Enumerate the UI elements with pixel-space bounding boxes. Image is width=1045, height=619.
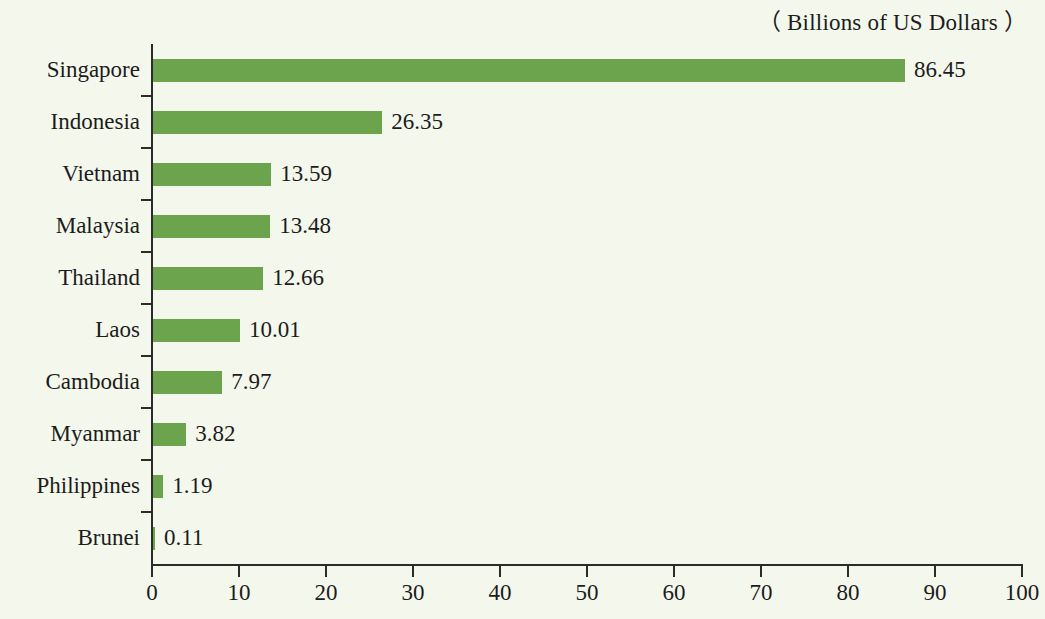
bar-row: Philippines1.19 xyxy=(152,460,1022,512)
x-axis-tick xyxy=(412,566,414,577)
bar xyxy=(153,371,222,394)
x-axis-tick xyxy=(238,566,240,577)
bar-value-label: 13.48 xyxy=(279,200,331,252)
bar xyxy=(153,267,263,290)
bar-value-label: 7.97 xyxy=(231,356,271,408)
x-axis-tick-label: 60 xyxy=(663,580,686,606)
bar-value-label: 1.19 xyxy=(172,460,212,512)
x-axis-tick xyxy=(325,566,327,577)
y-axis-tick xyxy=(141,251,151,253)
chart-unit-note: （ Billions of US Dollars ） xyxy=(758,3,1027,37)
category-label: Laos xyxy=(95,304,140,356)
bar xyxy=(153,319,240,342)
x-axis-tick-label: 0 xyxy=(146,580,158,606)
x-axis-tick xyxy=(673,566,675,577)
y-axis-tick xyxy=(141,199,151,201)
y-axis-tick xyxy=(141,303,151,305)
x-axis-tick-label: 100 xyxy=(1005,580,1040,606)
bar-value-label: 10.01 xyxy=(249,304,301,356)
bar xyxy=(153,527,155,550)
x-axis-tick-label: 10 xyxy=(228,580,251,606)
x-axis-tick xyxy=(586,566,588,577)
x-axis-tick xyxy=(760,566,762,577)
y-axis-tick xyxy=(141,147,151,149)
category-label: Singapore xyxy=(47,44,140,96)
bar-value-label: 12.66 xyxy=(272,252,324,304)
bar xyxy=(153,423,186,446)
x-axis-tick xyxy=(151,566,153,577)
bar-row: Thailand12.66 xyxy=(152,252,1022,304)
bar-row: Myanmar3.82 xyxy=(152,408,1022,460)
x-axis-tick-label: 90 xyxy=(924,580,947,606)
bar-chart: （ Billions of US Dollars ） Singapore86.4… xyxy=(0,0,1045,619)
category-label: Brunei xyxy=(77,512,140,564)
x-axis-tick-label: 20 xyxy=(315,580,338,606)
bar-row: Indonesia26.35 xyxy=(152,96,1022,148)
x-axis-tick xyxy=(934,566,936,577)
x-axis-tick-label: 80 xyxy=(837,580,860,606)
category-label: Thailand xyxy=(58,252,140,304)
category-label: Vietnam xyxy=(62,148,140,200)
bar xyxy=(153,163,271,186)
bar-value-label: 0.11 xyxy=(164,512,203,564)
bar-value-label: 26.35 xyxy=(391,96,443,148)
category-label: Myanmar xyxy=(51,408,140,460)
bar xyxy=(153,59,905,82)
bar-row: Brunei0.11 xyxy=(152,512,1022,564)
bar-value-label: 13.59 xyxy=(280,148,332,200)
x-axis-tick xyxy=(847,566,849,577)
bar-value-label: 3.82 xyxy=(195,408,235,460)
bar xyxy=(153,475,163,498)
x-axis-tick-label: 70 xyxy=(750,580,773,606)
bar-row: Singapore86.45 xyxy=(152,44,1022,96)
bar-rows: Singapore86.45Indonesia26.35Vietnam13.59… xyxy=(152,44,1022,564)
bar-value-label: 86.45 xyxy=(914,44,966,96)
bar-row: Cambodia7.97 xyxy=(152,356,1022,408)
bar-row: Malaysia13.48 xyxy=(152,200,1022,252)
x-axis-tick-label: 50 xyxy=(576,580,599,606)
bar xyxy=(153,111,382,134)
x-axis-ticks: 0102030405060708090100 xyxy=(152,564,1022,619)
bar-row: Laos10.01 xyxy=(152,304,1022,356)
y-axis-tick xyxy=(141,459,151,461)
category-label: Cambodia xyxy=(45,356,140,408)
y-axis-tick xyxy=(141,511,151,513)
category-label: Philippines xyxy=(36,460,140,512)
plot-area: Singapore86.45Indonesia26.35Vietnam13.59… xyxy=(152,44,1022,564)
x-axis-tick-label: 40 xyxy=(489,580,512,606)
x-axis-tick xyxy=(499,566,501,577)
x-axis-tick-label: 30 xyxy=(402,580,425,606)
category-label: Indonesia xyxy=(51,96,140,148)
x-axis-tick xyxy=(1021,566,1023,577)
y-axis-tick xyxy=(141,355,151,357)
category-label: Malaysia xyxy=(56,200,140,252)
y-axis-tick xyxy=(141,95,151,97)
bar-row: Vietnam13.59 xyxy=(152,148,1022,200)
y-axis-tick xyxy=(141,407,151,409)
bar xyxy=(153,215,270,238)
